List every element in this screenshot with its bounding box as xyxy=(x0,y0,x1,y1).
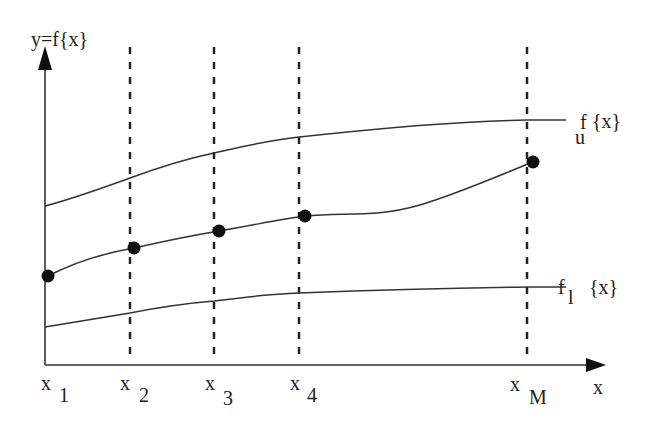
upper-label-sub: u xyxy=(575,126,585,148)
x-axis-arrow-icon xyxy=(586,358,606,372)
upper-bound-curve xyxy=(45,120,566,206)
sample-point-x4 xyxy=(299,210,312,223)
lower-label-sub: l xyxy=(568,286,574,308)
sample-point-x1 xyxy=(42,270,55,283)
tick-xM-sub: M xyxy=(529,386,547,408)
sample-point-xM xyxy=(527,156,540,169)
tick-x4-main: x xyxy=(290,372,300,394)
axes xyxy=(38,46,606,372)
diagram-canvas: y=f{x} f u {x} f l {x} x 1 x 2 x 3 x 4 x… xyxy=(0,0,654,430)
sample-points xyxy=(42,156,540,283)
dashed-gridlines xyxy=(130,47,527,362)
upper-bound-label: f u {x} xyxy=(575,110,621,148)
sample-point-x2 xyxy=(128,242,141,255)
tick-x4-sub: 4 xyxy=(307,384,317,406)
y-axis-label: y=f{x} xyxy=(31,28,88,51)
lower-bound-curve xyxy=(45,287,566,327)
tick-x1-sub: 1 xyxy=(59,384,69,406)
tick-xM-main: x xyxy=(510,373,520,395)
tick-x1-main: x xyxy=(41,372,51,394)
x-axis-label: x xyxy=(593,376,603,398)
lower-bound-label: f l {x} xyxy=(558,276,618,308)
tick-x2-sub: 2 xyxy=(139,384,149,406)
x-tick-labels: x 1 x 2 x 3 x 4 x M xyxy=(41,372,547,409)
lower-label-main: f xyxy=(558,276,565,298)
sample-point-x3 xyxy=(213,225,226,238)
upper-label-arg: {x} xyxy=(592,110,621,132)
function-curve xyxy=(48,162,533,276)
lower-label-arg: {x} xyxy=(589,276,618,298)
tick-x2-main: x xyxy=(120,372,130,394)
tick-x3-sub: 3 xyxy=(223,387,233,409)
tick-x3-main: x xyxy=(205,372,215,394)
